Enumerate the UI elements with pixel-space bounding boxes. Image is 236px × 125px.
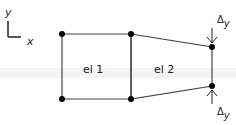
x-axis-label: x	[26, 35, 34, 48]
element-1-label: el 1	[83, 63, 103, 76]
bottom-displacement-label: Δy	[217, 106, 231, 121]
node	[209, 44, 215, 50]
node	[59, 31, 65, 37]
node	[209, 83, 215, 89]
top-displacement-label: Δy	[217, 14, 231, 29]
fem-diagram: y x el 1 el 2 Δy Δy	[0, 0, 236, 125]
node	[59, 96, 65, 102]
node	[128, 96, 134, 102]
node	[128, 31, 134, 37]
y-axis-label: y	[4, 6, 12, 19]
top-displacement-arrow-icon	[207, 28, 217, 43]
background-band	[0, 68, 236, 78]
bottom-displacement-arrow-icon	[207, 90, 217, 104]
element-2-label: el 2	[154, 63, 174, 76]
coordinate-axes: y x	[4, 6, 34, 48]
